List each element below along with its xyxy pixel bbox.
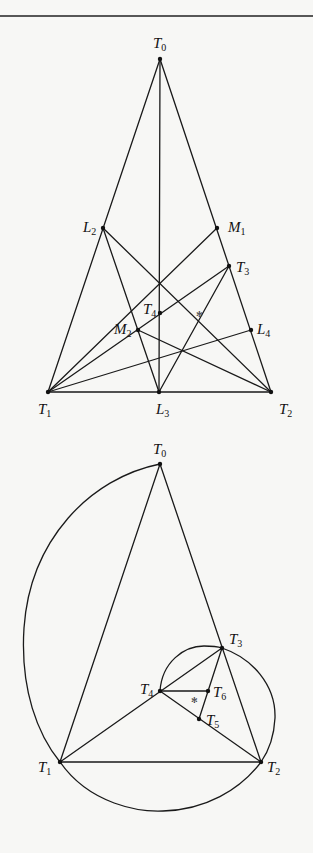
geometry-figure: T0 T1 T2 L3 L2 M1 T3 T4 M2 L4 ✻ xyxy=(0,0,313,853)
point-t0 xyxy=(158,57,162,61)
point-t2 xyxy=(259,760,263,764)
point-l3 xyxy=(157,390,161,394)
point-t2 xyxy=(269,390,273,394)
figure-top: T0 T1 T2 L3 L2 M1 T3 T4 M2 L4 ✻ xyxy=(38,35,292,419)
label-l4: L4 xyxy=(256,321,270,339)
point-t6 xyxy=(206,689,210,693)
asterisk-marker-icon: ✻ xyxy=(191,696,198,705)
label-t4: T4 xyxy=(143,301,156,319)
label-t4: T4 xyxy=(140,681,153,699)
point-l4 xyxy=(249,328,253,332)
label-t1: T1 xyxy=(38,401,51,419)
asterisk-marker-icon: ✻ xyxy=(196,310,203,319)
label-t0: T0 xyxy=(153,35,166,53)
label-l3: L3 xyxy=(155,401,169,419)
line-t1-l4 xyxy=(48,330,251,392)
label-m1: M1 xyxy=(227,219,246,237)
label-m2: M2 xyxy=(113,321,132,339)
figure-bottom: T0 T1 T2 T3 T4 T5 T6 ✻ xyxy=(23,441,280,811)
label-t5: T5 xyxy=(206,712,219,730)
point-m1 xyxy=(215,226,219,230)
label-t1: T1 xyxy=(38,759,51,777)
label-t2: T2 xyxy=(279,401,292,419)
line-m2-t2 xyxy=(138,330,271,392)
line-t0-l3 xyxy=(159,59,160,392)
side-t0-t1 xyxy=(48,59,160,392)
label-t2: T2 xyxy=(267,759,280,777)
side-t0-t1 xyxy=(60,464,160,762)
point-t1 xyxy=(58,760,62,764)
line-l3-t3 xyxy=(159,266,229,392)
point-m2 xyxy=(136,328,140,332)
label-l2: L2 xyxy=(82,219,96,237)
line-t1-m1 xyxy=(48,228,217,392)
side-t0-t2 xyxy=(160,59,271,392)
point-l2 xyxy=(101,226,105,230)
point-t0 xyxy=(158,462,162,466)
point-t4 xyxy=(158,311,162,315)
label-t3: T3 xyxy=(236,259,249,277)
point-t3 xyxy=(227,264,231,268)
point-t5 xyxy=(197,717,201,721)
line-t1-t3 xyxy=(60,648,222,762)
point-t4 xyxy=(158,689,162,693)
label-t0: T0 xyxy=(153,441,166,459)
point-t1 xyxy=(46,390,50,394)
point-t3 xyxy=(220,646,224,650)
label-t3: T3 xyxy=(229,631,242,649)
label-t6: T6 xyxy=(213,684,226,702)
